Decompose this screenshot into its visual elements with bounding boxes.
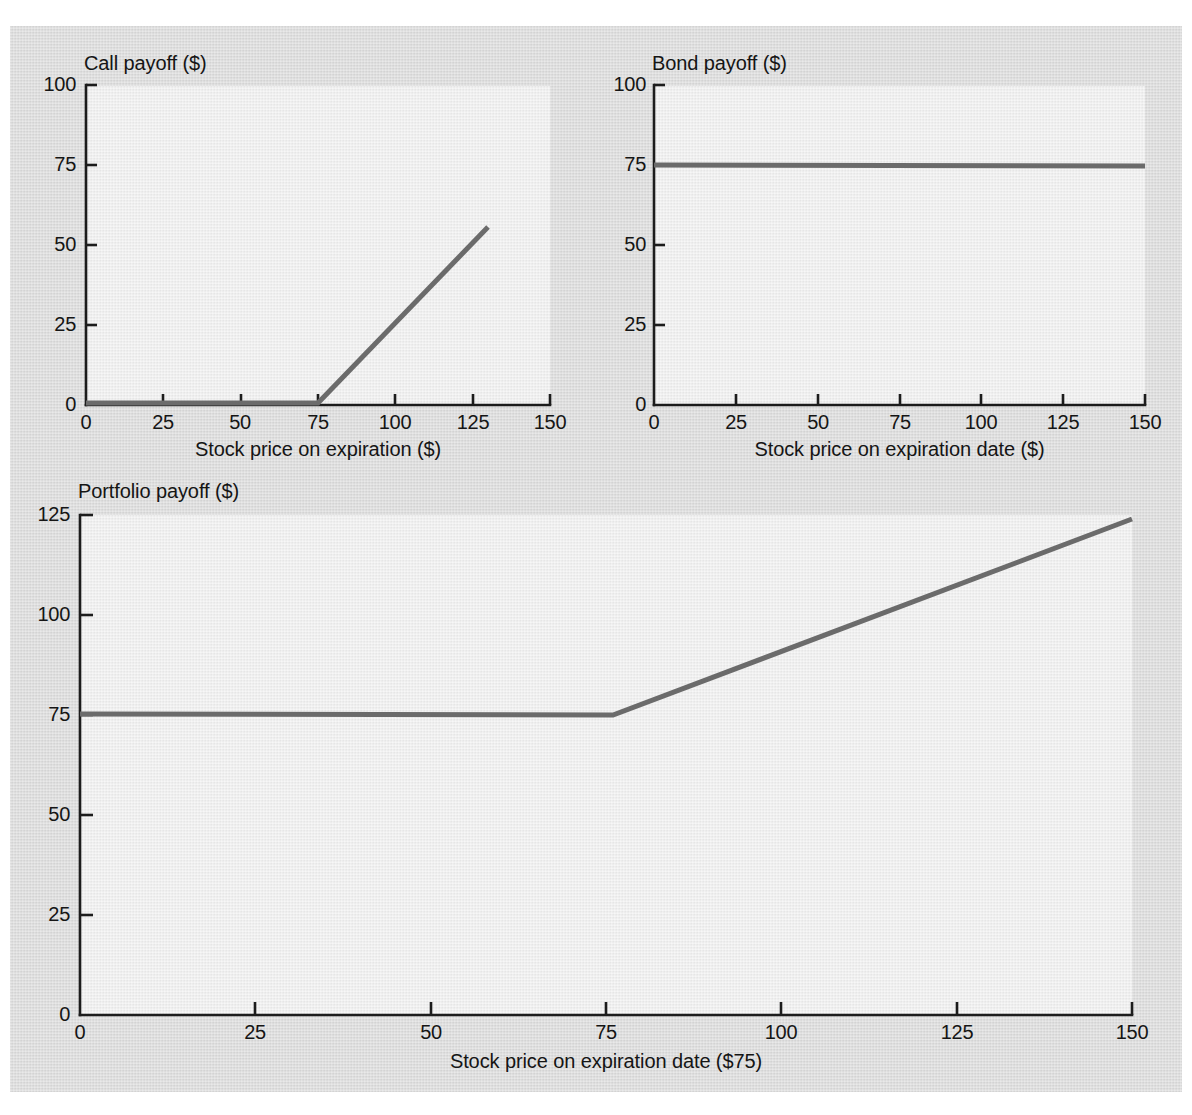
- bond-plot-svg: [592, 0, 1192, 470]
- call-plot-svg: [0, 0, 600, 470]
- portfolio-plot-svg: [0, 470, 1192, 1115]
- panel-portfolio-payoff: Portfolio payoff ($) 125 100 75 50 25 0 …: [0, 470, 1192, 1115]
- portfolio-payoff-line: [80, 519, 1132, 715]
- call-payoff-line: [86, 227, 488, 403]
- panel-call-payoff: Call payoff ($) 100 75 50 25 0 0 25 50 7…: [0, 0, 600, 470]
- figure-page: Call payoff ($) 100 75 50 25 0 0 25 50 7…: [0, 0, 1192, 1115]
- bond-payoff-line: [654, 165, 1145, 166]
- panel-bond-payoff: Bond payoff ($) 100 75 50 25 0 0 25 50 7…: [592, 0, 1192, 470]
